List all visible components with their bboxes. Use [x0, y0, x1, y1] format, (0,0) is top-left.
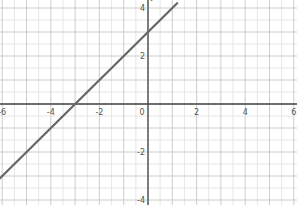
x-tick-label: 0 — [139, 108, 144, 117]
x-tick-label: 6 — [291, 108, 296, 117]
y-axis-label: y — [150, 0, 155, 1]
y-tick-label: -2 — [137, 148, 145, 157]
x-tick-label: 2 — [194, 108, 199, 117]
y-tick-label: 2 — [140, 52, 145, 61]
coordinate-plane: -6-4-20246-4-224 y — [0, 0, 297, 205]
x-tick-label: -6 — [0, 108, 6, 117]
x-tick-label: -4 — [47, 108, 55, 117]
y-tick-label: -4 — [137, 196, 145, 205]
x-tick-label: -2 — [95, 108, 103, 117]
x-tick-label: 4 — [243, 108, 248, 117]
y-tick-label: 4 — [140, 4, 145, 13]
